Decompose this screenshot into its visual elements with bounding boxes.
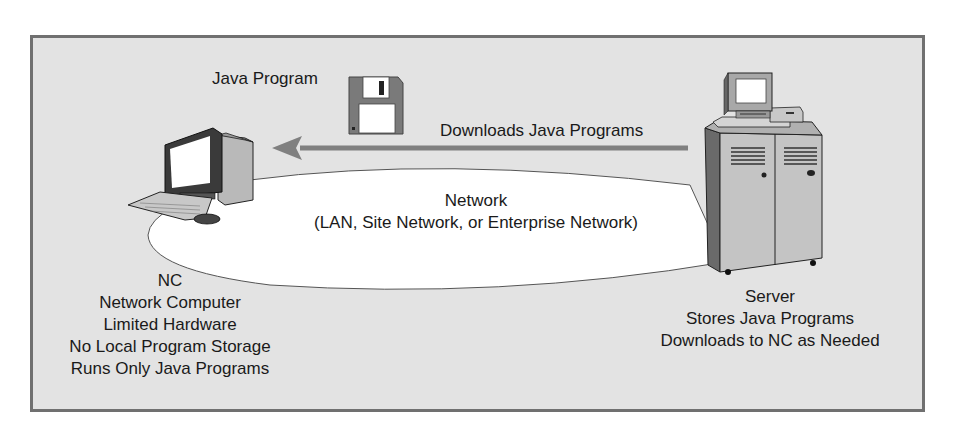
server-line-server: Server xyxy=(635,286,905,308)
floppy-disk-icon xyxy=(349,77,403,134)
network-subtitle: (LAN, Site Network, or Enterprise Networ… xyxy=(236,212,716,234)
client-line-network-computer: Network Computer xyxy=(40,292,300,314)
arrow-label: Downloads Java Programs xyxy=(440,120,643,142)
server-cabinet-icon xyxy=(705,73,822,275)
java-program-label: Java Program xyxy=(212,68,318,90)
network-title: Network xyxy=(276,190,676,212)
server-line-downloads: Downloads to NC as Needed xyxy=(635,330,905,352)
client-line-limited-hardware: Limited Hardware xyxy=(40,314,300,336)
server-line-stores: Stores Java Programs xyxy=(635,308,905,330)
client-line-nc: NC xyxy=(40,270,300,292)
client-line-no-local-storage: No Local Program Storage xyxy=(40,336,300,358)
client-line-runs-java: Runs Only Java Programs xyxy=(40,358,300,380)
